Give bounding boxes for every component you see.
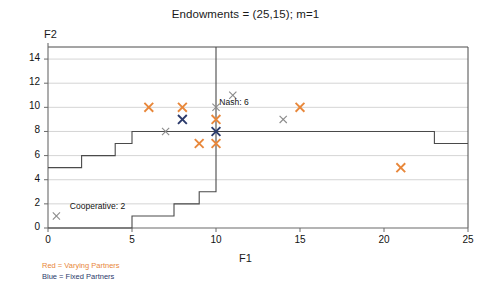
legend-item-fixed-partners: Blue = Fixed Partners bbox=[42, 271, 120, 282]
x-tick-label: 5 bbox=[117, 234, 147, 245]
x-tick-label: 25 bbox=[453, 234, 483, 245]
x-tick-label: 10 bbox=[201, 234, 231, 245]
legend-item-varying-partners: Red = Varying Partners bbox=[42, 260, 120, 271]
y-tick-label: 4 bbox=[18, 173, 40, 184]
annotation-label: Nash: 6 bbox=[219, 97, 248, 107]
y-tick-label: 10 bbox=[18, 100, 40, 111]
y-tick-label: 2 bbox=[18, 197, 40, 208]
y-tick-label: 6 bbox=[18, 149, 40, 160]
plot-area bbox=[0, 0, 491, 288]
x-tick-label: 15 bbox=[285, 234, 315, 245]
chart-legend: Red = Varying Partners Blue = Fixed Part… bbox=[42, 260, 120, 282]
y-tick-label: 14 bbox=[18, 52, 40, 63]
x-tick-label: 20 bbox=[369, 234, 399, 245]
annotation-label: Cooperative: 2 bbox=[70, 201, 125, 211]
chart-container: Endowments = (25,15); m=1 F2 F1 02468101… bbox=[0, 0, 491, 288]
y-tick-label: 12 bbox=[18, 76, 40, 87]
y-tick-label: 8 bbox=[18, 124, 40, 135]
x-tick-label: 0 bbox=[33, 234, 63, 245]
y-tick-label: 0 bbox=[18, 221, 40, 232]
